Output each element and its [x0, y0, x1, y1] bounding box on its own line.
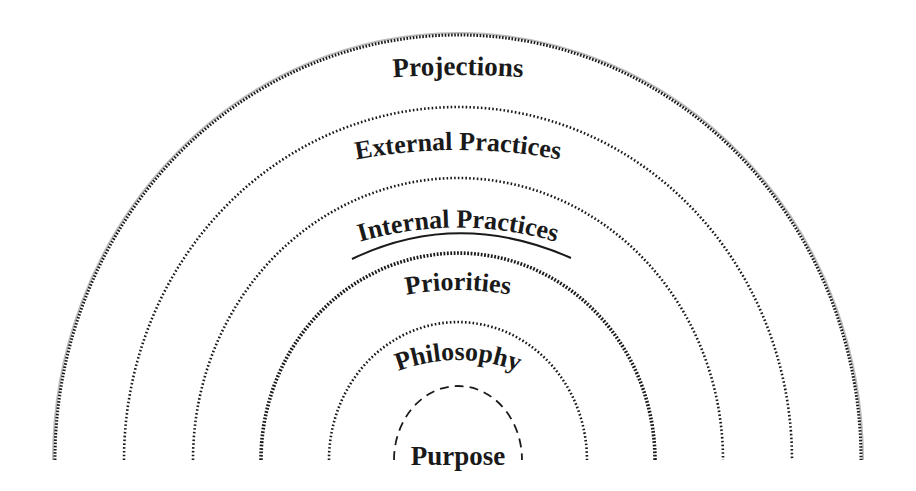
ring-label-philosophy: Philosophy — [391, 337, 526, 377]
ring-label-purpose: Purpose — [411, 441, 506, 471]
ring-label-projections: Projections — [392, 51, 525, 83]
ring-label-internal-practices: Internal Practices — [354, 204, 562, 247]
ring-arcs — [53, 33, 863, 460]
ring-arc-shadow — [53, 33, 863, 460]
ring-arc-projections — [55, 35, 861, 460]
concentric-rings-diagram: Projections External Practices Internal … — [0, 0, 916, 491]
ring-label-priorities: Priorities — [403, 267, 514, 301]
ring-label-external-practices: External Practices — [352, 127, 563, 165]
